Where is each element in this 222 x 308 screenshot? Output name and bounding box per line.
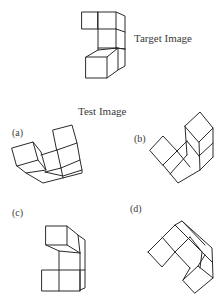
option-c-figure	[42, 226, 85, 291]
option-d-figure	[148, 221, 213, 293]
target-image-label: Target Image	[134, 32, 192, 44]
option-b-figure	[150, 112, 213, 183]
cube-figures	[0, 0, 222, 308]
target-figure	[82, 12, 125, 78]
option-b-label: (b)	[134, 133, 146, 144]
option-d-label: (d)	[130, 203, 142, 214]
test-image-heading: Test Image	[78, 105, 126, 117]
option-a-label: (a)	[12, 127, 23, 138]
option-c-label: (c)	[12, 207, 23, 218]
